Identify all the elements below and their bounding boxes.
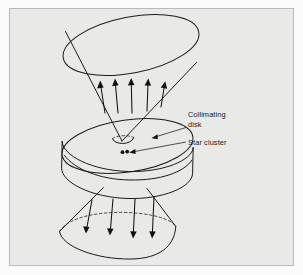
star-dot-2: [125, 150, 129, 154]
label-star-cluster: Star cluster: [188, 138, 227, 147]
figure-root: Collimating disk Star cluster: [0, 0, 303, 275]
label-collimating-disk-line2: disk: [188, 120, 202, 129]
star-dot-1: [121, 150, 125, 154]
label-collimating-disk-line1: Collimating: [188, 110, 226, 119]
panel-background: [10, 9, 294, 266]
diagram-canvas: Collimating disk Star cluster: [0, 0, 303, 275]
